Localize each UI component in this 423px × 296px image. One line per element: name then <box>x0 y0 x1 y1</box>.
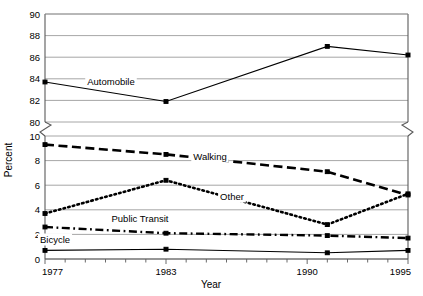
chart-container: 80828486889002468101977198319901995YearP… <box>0 0 423 296</box>
data-point-public-transit <box>325 234 329 238</box>
data-point-other <box>325 223 329 227</box>
data-point-bicycle <box>164 247 168 251</box>
series-label-other: Other <box>220 191 244 202</box>
data-point-public-transit <box>43 225 47 229</box>
data-point-automobile <box>406 53 410 57</box>
axis-break-symbol <box>40 122 51 136</box>
y-tick-label-upper: 90 <box>29 9 40 20</box>
data-point-automobile <box>164 100 168 104</box>
data-point-bicycle <box>43 249 47 253</box>
y-tick-label-upper: 80 <box>29 117 40 128</box>
y-axis-title: Percent <box>3 143 14 178</box>
y-tick-label-lower: 0 <box>35 254 40 265</box>
data-point-public-transit <box>164 231 168 235</box>
x-tick-label: 1977 <box>42 266 63 277</box>
data-point-walking <box>325 170 329 174</box>
y-tick-label-lower: 8 <box>35 155 40 166</box>
data-point-other <box>43 212 47 216</box>
x-tick-label: 1995 <box>390 266 411 277</box>
x-tick-label: 1983 <box>155 266 176 277</box>
y-tick-label-lower: 10 <box>29 131 40 142</box>
data-point-other <box>406 192 410 196</box>
data-point-walking <box>43 143 47 147</box>
series-label-walking: Walking <box>193 151 226 162</box>
data-point-walking <box>164 153 168 157</box>
series-line-automobile <box>45 46 408 101</box>
y-tick-label-upper: 88 <box>29 30 40 41</box>
y-tick-label-upper: 84 <box>29 73 40 84</box>
series-line-bicycle <box>45 249 408 253</box>
data-point-automobile <box>43 80 47 84</box>
y-tick-label-lower: 6 <box>35 180 40 191</box>
y-tick-label-upper: 82 <box>29 95 40 106</box>
series-label-bicycle: Bicycle <box>40 234 70 245</box>
data-point-public-transit <box>406 236 410 240</box>
series-label-automobile: Automobile <box>87 76 135 87</box>
x-tick-label: 1990 <box>297 266 318 277</box>
series-label-public-transit: Public Transit <box>111 213 168 224</box>
data-point-bicycle <box>406 249 410 253</box>
axis-break-symbol <box>402 122 413 136</box>
y-tick-label-upper: 86 <box>29 52 40 63</box>
line-chart: 80828486889002468101977198319901995YearP… <box>0 0 423 296</box>
data-point-other <box>164 178 168 182</box>
data-point-bicycle <box>325 251 329 255</box>
series-line-public-transit <box>45 227 408 238</box>
data-point-automobile <box>325 45 329 49</box>
y-tick-label-lower: 4 <box>35 204 40 215</box>
x-axis-title: Year <box>201 279 222 290</box>
